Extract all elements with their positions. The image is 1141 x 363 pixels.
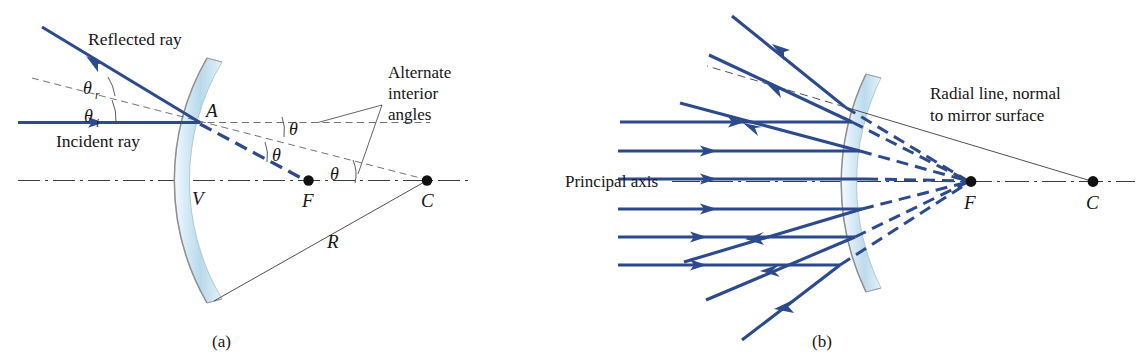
label-theta-3: θ bbox=[330, 164, 339, 184]
radius-line-a bbox=[214, 181, 427, 302]
angle-arc-theta-3-a bbox=[353, 160, 356, 183]
label-theta-incident-subscript: i bbox=[96, 117, 99, 129]
label-alternate-interior-line2: interior bbox=[388, 84, 438, 103]
label-theta-incident: θ bbox=[84, 106, 93, 126]
label-principal-axis: Principal axis bbox=[565, 172, 658, 191]
label-point-c-a: C bbox=[421, 190, 434, 211]
angle-arc-theta-r-a bbox=[108, 77, 115, 96]
focal-point-dot-a bbox=[303, 175, 313, 185]
label-alternate-interior-line3: angles bbox=[388, 105, 431, 124]
figure-root: Reflected ray Incident ray θ r θ i Alter… bbox=[0, 0, 1141, 363]
label-theta-reflected-subscript: r bbox=[95, 89, 100, 101]
center-curvature-dot-b bbox=[1088, 176, 1099, 187]
label-alternate-interior-line1: Alternate bbox=[388, 63, 451, 82]
caption-panel-a: (a) bbox=[212, 332, 231, 351]
label-point-v: V bbox=[192, 188, 206, 209]
panel-b bbox=[618, 16, 1135, 340]
angle-arc-theta-1-a bbox=[282, 117, 284, 137]
label-radial-line-2: to mirror surface bbox=[930, 106, 1044, 125]
label-incident-ray: Incident ray bbox=[56, 131, 140, 151]
angle-arc-theta-2-a bbox=[265, 142, 268, 162]
caption-panel-b: (b) bbox=[812, 332, 832, 351]
optics-figure-svg: Reflected ray Incident ray θ r θ i Alter… bbox=[0, 0, 1141, 363]
label-radius-r: R bbox=[326, 231, 339, 252]
center-curvature-dot-a bbox=[422, 175, 432, 185]
label-theta-1: θ bbox=[289, 119, 298, 139]
label-reflected-ray: Reflected ray bbox=[88, 29, 182, 49]
label-point-a: A bbox=[204, 100, 218, 121]
focal-point-dot-b bbox=[966, 176, 977, 187]
alt-angle-pointer-upper-a bbox=[318, 105, 382, 123]
label-point-f-b: F bbox=[963, 192, 976, 213]
label-theta-2: θ bbox=[272, 145, 281, 165]
label-point-c-b: C bbox=[1086, 192, 1099, 213]
label-radial-line-1: Radial line, normal bbox=[930, 84, 1061, 103]
alt-angle-pointer-lower-a bbox=[358, 105, 382, 174]
normal-line-a bbox=[32, 78, 432, 181]
angle-arc-theta-i-a bbox=[112, 100, 116, 122]
label-point-f-a: F bbox=[301, 190, 314, 211]
label-theta-reflected: θ bbox=[83, 78, 92, 98]
